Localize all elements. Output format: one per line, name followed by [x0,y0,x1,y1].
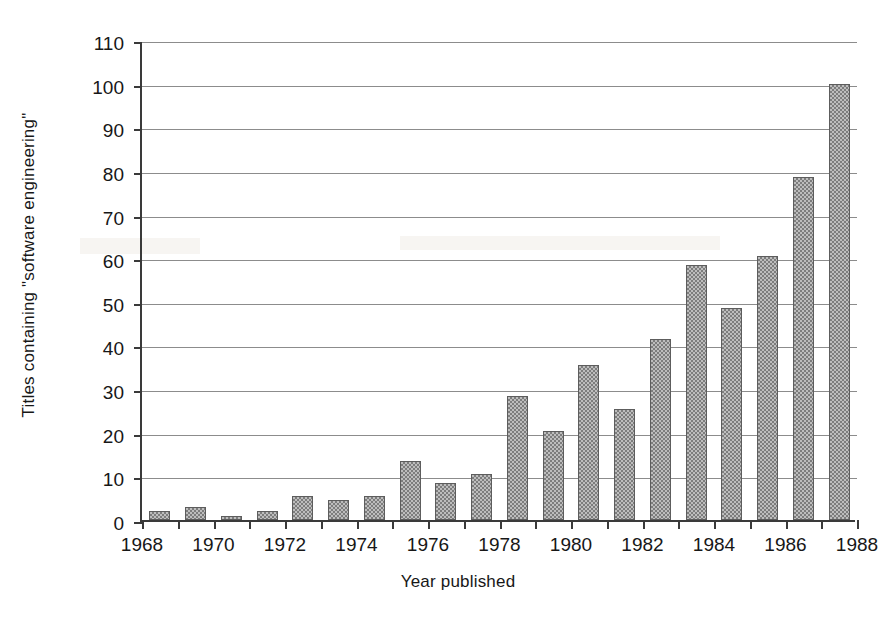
bar [471,474,492,520]
gridline [142,391,857,392]
bar [221,516,242,520]
x-axis-tick [786,520,788,529]
gridline [142,173,857,174]
x-axis-tick [821,520,823,529]
y-axis-tick-label: 50 [103,295,124,317]
x-axis-tick [750,520,752,529]
x-axis-tick [285,520,287,529]
x-axis-tick [643,520,645,529]
x-axis-title: Year published [58,572,858,592]
y-axis-tick: 0 [134,522,142,524]
bar [257,511,278,520]
x-axis-tick [464,520,466,529]
x-axis-tick-label: 1974 [335,534,377,556]
gridline [142,260,857,261]
x-axis-tick-label: 1984 [693,534,735,556]
x-axis-tick [178,520,180,529]
bar [757,256,778,520]
y-axis-tick-label: 10 [103,469,124,491]
y-axis-tick: 100 [134,86,142,88]
y-axis-tick: 50 [134,304,142,306]
bar [185,507,206,520]
gridline [142,435,857,436]
gridline [142,347,857,348]
x-axis-tick [214,520,216,529]
gridline [142,129,857,130]
bar [793,177,814,520]
y-axis-tick-label: 110 [94,33,124,55]
y-axis-title: Titles containing "software engineering" [0,0,58,530]
bar [328,500,349,520]
y-axis-tick-label: 20 [103,426,124,448]
x-axis-tick [607,520,609,529]
y-axis-tick: 30 [134,391,142,393]
y-axis-tick: 60 [134,260,142,262]
y-axis-tick: 10 [134,478,142,480]
y-axis-title-text: Titles containing "software engineering" [19,113,39,418]
x-axis-tick [428,520,430,529]
y-axis-tick: 40 [134,347,142,349]
y-axis-tick-label: 30 [103,382,124,404]
x-axis-tick [571,520,573,529]
bar [149,511,170,520]
y-axis-tick-label: 100 [92,77,124,99]
y-axis-tick: 70 [134,217,142,219]
bar [650,339,671,520]
y-axis-tick-label: 70 [103,208,124,230]
x-axis-tick-label: 1972 [264,534,306,556]
bar-chart-figure: Titles containing "software engineering"… [0,0,893,619]
gridline [142,42,857,43]
bar [721,308,742,520]
bar [686,265,707,520]
y-axis-tick-label: 80 [103,164,124,186]
x-axis-tick-label: 1988 [836,534,878,556]
bar [614,409,635,520]
x-axis-tick [535,520,537,529]
x-axis-tick [357,520,359,529]
x-axis-tick [249,520,251,529]
x-axis-tick [392,520,394,529]
plot-area: 0102030405060708090100110 19681970197219… [140,42,855,522]
bar [435,483,456,520]
y-axis-tick-label: 90 [103,120,124,142]
x-axis-tick [714,520,716,529]
y-axis-tick: 110 [134,42,142,44]
bar [543,431,564,520]
x-axis-tick [678,520,680,529]
x-axis-tick [321,520,323,529]
x-axis-tick-label: 1980 [550,534,592,556]
bar [400,461,421,520]
x-axis-tick [142,520,144,529]
gridline [142,478,857,479]
x-axis-tick [857,520,859,529]
y-axis-tick-label: 0 [113,513,124,535]
x-axis-tick-label: 1970 [192,534,234,556]
x-axis-tick [500,520,502,529]
gridline [142,86,857,87]
y-axis-tick: 80 [134,173,142,175]
y-axis-tick-label: 60 [103,251,124,273]
gridline [142,217,857,218]
bar [507,396,528,520]
x-axis-tick-label: 1978 [478,534,520,556]
gridline [142,304,857,305]
bar [364,496,385,520]
x-axis-tick-label: 1968 [121,534,163,556]
x-axis-tick-label: 1982 [621,534,663,556]
y-axis-tick-label: 40 [103,338,124,360]
bar [292,496,313,520]
y-axis-tick: 90 [134,129,142,131]
x-axis-tick-label: 1976 [407,534,449,556]
y-axis-tick: 20 [134,435,142,437]
bar [829,84,850,520]
bar [578,365,599,520]
x-axis-tick-label: 1986 [764,534,806,556]
